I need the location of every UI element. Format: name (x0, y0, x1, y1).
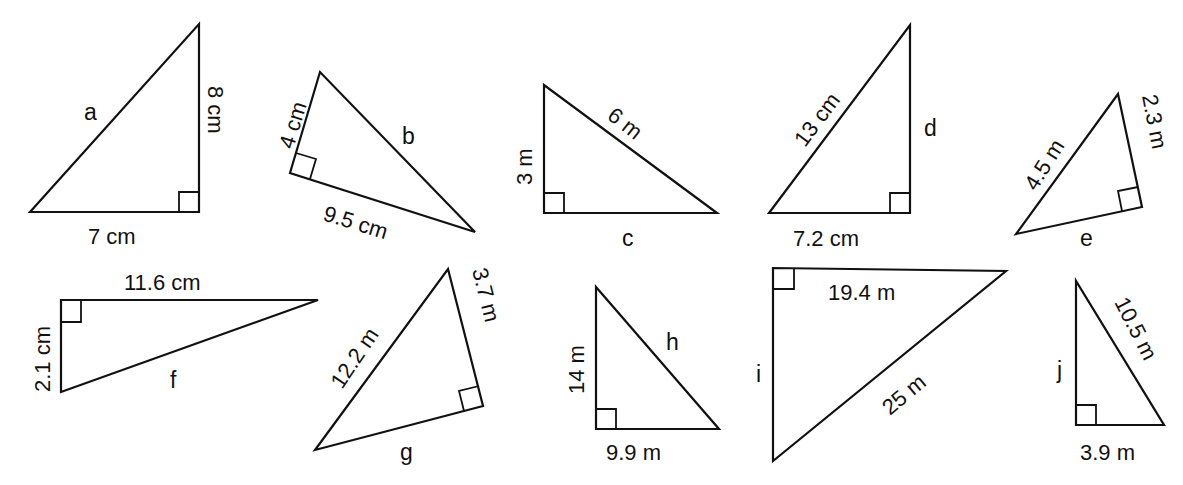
side-label-unknown: f (170, 367, 177, 393)
triangle-j: 10.5 m j 3.9 m (1056, 281, 1164, 465)
side-label: 4 cm (274, 99, 312, 152)
side-label-unknown: j (1056, 357, 1062, 383)
side-label-unknown: e (1080, 225, 1093, 251)
triangle-h: 14 m h 9.9 m (564, 287, 719, 465)
side-label-unknown: g (400, 439, 413, 465)
right-angle-marker (773, 268, 794, 289)
side-label: 19.4 m (828, 280, 895, 305)
side-label: 3 m (512, 148, 537, 185)
side-label: 14 m (564, 345, 589, 394)
side-label: 2.1 cm (30, 326, 55, 392)
right-angle-marker (61, 300, 81, 322)
side-label-unknown: c (622, 225, 634, 251)
side-label: 12.2 m (325, 323, 383, 393)
side-label: 9.5 cm (321, 201, 391, 244)
right-angle-marker (890, 193, 910, 213)
triangles-diagram: a 8 cm 7 cm 4 cm b 9.5 cm 3 m 6 m c 13 c… (0, 0, 1183, 485)
triangle-c: 3 m 6 m c (512, 85, 717, 251)
right-angle-marker (179, 192, 199, 212)
side-label: 7.2 cm (793, 226, 859, 251)
side-label: 10.5 m (1110, 293, 1163, 364)
side-label: 3.7 m (467, 265, 505, 324)
side-label: 8 cm (203, 86, 228, 134)
triangle-b: 4 cm b 9.5 cm (274, 72, 475, 244)
side-label: 4.5 m (1019, 135, 1069, 195)
side-label-unknown: b (402, 123, 415, 149)
triangle-g: 12.2 m 3.7 m g (315, 265, 505, 465)
side-label: 7 cm (88, 224, 136, 249)
triangle-i: 19.4 m i 25 m (756, 268, 1006, 461)
side-label: 9.9 m (606, 440, 661, 465)
triangle-a: a 8 cm 7 cm (30, 24, 228, 249)
side-label: 13 cm (789, 88, 845, 151)
triangle-d: 13 cm d 7.2 cm (769, 25, 937, 251)
side-label-unknown: a (84, 99, 97, 125)
side-label-unknown: d (924, 115, 937, 141)
triangle-e: 4.5 m 2.3 m e (1016, 92, 1172, 251)
side-label-unknown: h (666, 329, 679, 355)
side-label: 11.6 cm (124, 270, 201, 295)
side-label-unknown: i (756, 361, 761, 387)
side-label: 3.9 m (1080, 440, 1135, 465)
side-label: 2.3 m (1137, 92, 1172, 151)
side-label: 25 m (877, 369, 931, 420)
right-angle-marker (596, 409, 616, 429)
right-angle-marker (1076, 405, 1096, 425)
side-label: 6 m (603, 102, 647, 144)
right-angle-marker (544, 193, 564, 213)
triangle-f: 11.6 cm 2.1 cm f (30, 270, 318, 393)
